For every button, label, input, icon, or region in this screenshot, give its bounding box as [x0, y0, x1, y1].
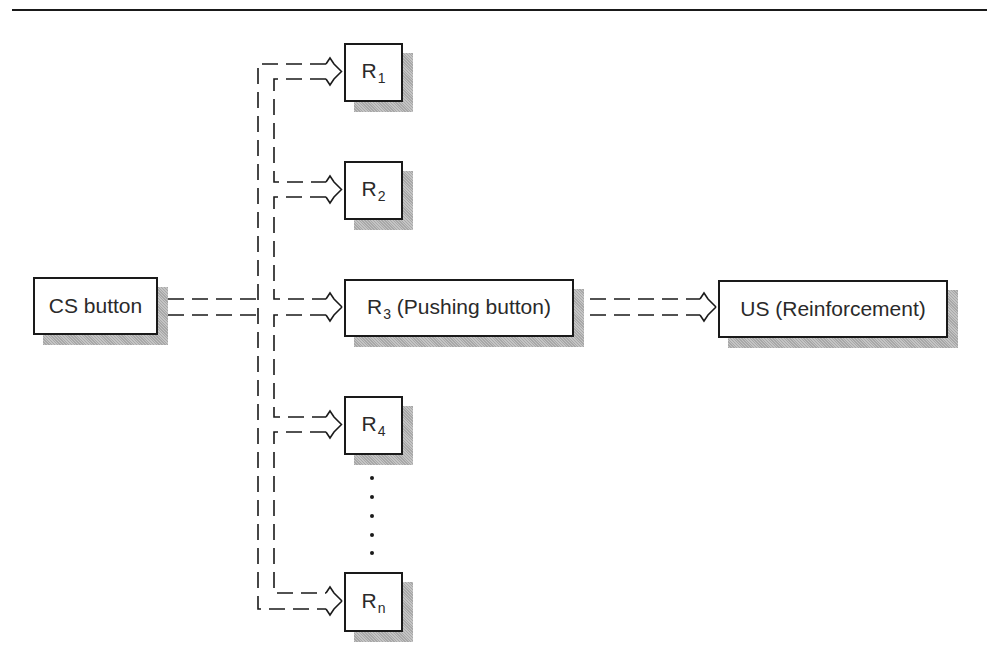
rn-label: Rn: [362, 589, 386, 616]
us-label: US (Reinforcement): [740, 297, 926, 321]
r4-node: R4: [344, 396, 403, 455]
outer-vertical: [258, 64, 326, 609]
rn-node: Rn: [344, 572, 403, 632]
cs-button-label: CS button: [49, 294, 142, 318]
r1-node: R1: [344, 43, 403, 102]
cs-button-node: CS button: [33, 277, 158, 335]
r2-label: R2: [362, 177, 386, 204]
r4-label: R4: [362, 412, 386, 439]
inner-vertical: [274, 79, 326, 182]
r1-label: R1: [362, 59, 386, 86]
us-node: US (Reinforcement): [718, 280, 948, 338]
r3-label: R3 (Pushing button): [367, 295, 551, 322]
r3-node: R3 (Pushing button): [344, 279, 574, 337]
r2-node: R2: [344, 161, 403, 220]
